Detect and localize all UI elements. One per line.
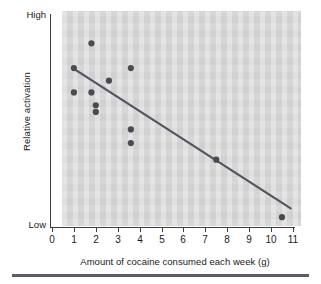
x-axis-tick-label: 6 bbox=[172, 234, 194, 245]
x-axis-tick-mark bbox=[205, 228, 206, 232]
x-axis-tick-label: 3 bbox=[107, 234, 129, 245]
x-axis-tick-label: 2 bbox=[85, 234, 107, 245]
y-axis-line bbox=[50, 14, 51, 228]
x-axis-tick-label: 10 bbox=[260, 234, 282, 245]
x-axis-tick-mark bbox=[52, 228, 53, 232]
x-axis-tick-label: 9 bbox=[238, 234, 260, 245]
y-axis-label-low: Low bbox=[12, 219, 46, 230]
x-axis-title: Amount of cocaine consumed each week (g) bbox=[40, 256, 310, 267]
x-axis-tick-mark bbox=[249, 228, 250, 232]
x-axis-tick-label: 4 bbox=[129, 234, 151, 245]
x-axis-tick-label: 5 bbox=[151, 234, 173, 245]
x-axis-tick-mark bbox=[227, 228, 228, 232]
x-axis-tick-mark bbox=[140, 228, 141, 232]
x-axis-tick-mark bbox=[183, 228, 184, 232]
scatter-plot-figure: Relative activation High Low 01234567891… bbox=[0, 0, 321, 284]
x-axis-tick-label: 7 bbox=[194, 234, 216, 245]
y-axis-label-high: High bbox=[12, 9, 46, 20]
x-axis-tick-label: 0 bbox=[41, 234, 63, 245]
figure-bottom-rule bbox=[12, 274, 309, 277]
x-axis-tick-label: 1 bbox=[63, 234, 85, 245]
x-axis-tick-mark bbox=[96, 228, 97, 232]
plot-area bbox=[62, 11, 301, 226]
x-axis-tick-mark bbox=[293, 228, 294, 232]
x-axis-tick-mark bbox=[74, 228, 75, 232]
x-axis-tick-label: 11 bbox=[282, 234, 304, 245]
x-axis-tick-mark bbox=[162, 228, 163, 232]
y-axis-title: Relative activation bbox=[21, 32, 32, 192]
x-axis-line bbox=[50, 227, 295, 228]
x-axis-tick-mark bbox=[118, 228, 119, 232]
x-axis-tick-label: 8 bbox=[216, 234, 238, 245]
x-axis-tick-mark bbox=[271, 228, 272, 232]
